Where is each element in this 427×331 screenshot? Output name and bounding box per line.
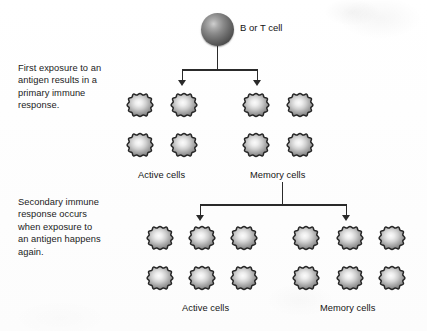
memory-primary-cell xyxy=(241,130,271,160)
fork-1-crossbar xyxy=(182,69,257,71)
active-secondary-cell xyxy=(187,263,217,293)
fork-2-crossbar xyxy=(200,204,346,206)
memory-secondary-cell xyxy=(377,263,407,293)
active-primary-cell xyxy=(125,130,155,160)
active-secondary-cell xyxy=(187,223,217,253)
memory-secondary-cell xyxy=(291,223,321,253)
active-secondary-cell xyxy=(145,223,175,253)
active-primary-cell xyxy=(169,130,199,160)
fork-1-right-arrowhead xyxy=(253,80,261,86)
stem-cell-sphere xyxy=(201,13,234,46)
active-primary-cell xyxy=(169,90,199,120)
memory-secondary-cell xyxy=(377,223,407,253)
active-cells-label-secondary: Active cells xyxy=(182,303,229,313)
fork-1-stem xyxy=(217,46,219,70)
fork-2-left-arrowhead xyxy=(196,215,204,221)
memory-primary-cell xyxy=(241,90,271,120)
active-cells-label-primary: Active cells xyxy=(138,170,185,180)
primary-response-caption: First exposure to an antigen results in … xyxy=(18,62,142,112)
memory-secondary-cell xyxy=(335,223,365,253)
memory-primary-cell xyxy=(285,130,315,160)
active-secondary-cell xyxy=(229,263,259,293)
active-secondary-cell xyxy=(145,263,175,293)
figure-canvas: B or T cell Active cells Memory cells Ac… xyxy=(0,0,427,331)
memory-cells-label-secondary: Memory cells xyxy=(320,303,375,313)
memory-secondary-cell xyxy=(291,263,321,293)
memory-secondary-cell xyxy=(335,263,365,293)
memory-primary-cell xyxy=(285,90,315,120)
stem-cell-label: B or T cell xyxy=(240,22,282,33)
fork-2-stem xyxy=(282,182,284,205)
active-secondary-cell xyxy=(229,223,259,253)
fork-1-left-arrowhead xyxy=(178,80,186,86)
fork-2-right-arrowhead xyxy=(342,215,350,221)
memory-cells-label-primary: Memory cells xyxy=(250,170,305,180)
secondary-response-caption: Secondary immune response occurs when ex… xyxy=(18,196,146,258)
